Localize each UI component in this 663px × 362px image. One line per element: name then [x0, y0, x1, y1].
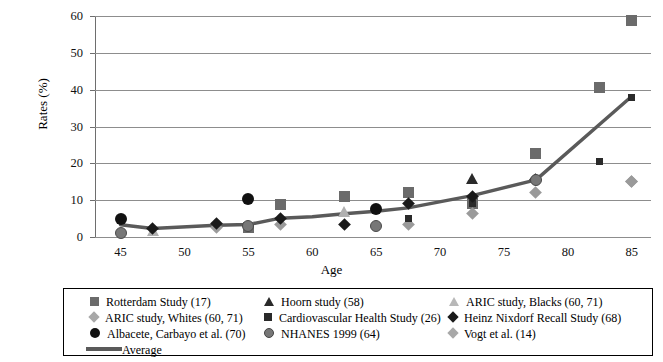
legend-item-label: Average: [122, 343, 162, 357]
x-tick-label: 55: [228, 246, 268, 258]
legend-item: Rotterdam Study (17): [90, 294, 211, 309]
triangle-light-marker-icon: [449, 297, 459, 306]
y-tick-label: 50: [53, 47, 83, 59]
data-points-layer: [95, 16, 651, 237]
x-tick-label: 45: [101, 246, 141, 258]
data-point-marker: [405, 215, 412, 222]
diamond-light-marker-icon: [88, 312, 99, 323]
chart-figure: Rates (%) Age 0102030405060 455055606570…: [0, 0, 663, 362]
data-point-marker: [530, 174, 542, 186]
y-tick-label: 60: [53, 10, 83, 22]
x-tick-label: 75: [484, 246, 524, 258]
line-marker-icon: [86, 347, 122, 351]
legend-item-label: ARIC study, Blacks (60, 71): [466, 295, 603, 309]
legend-item-label: NHANES 1999 (64): [281, 327, 380, 341]
legend-item: ARIC study, Blacks (60, 71): [449, 294, 603, 309]
y-tick-label: 40: [53, 84, 83, 96]
x-tick-label: 80: [548, 246, 588, 258]
y-tick-label: 0: [53, 231, 83, 243]
legend-item: Hoorn study (58): [264, 294, 364, 309]
x-tick-label: 85: [612, 246, 652, 258]
diamond-light-marker-icon: [447, 328, 458, 339]
data-point-marker: [596, 158, 603, 165]
legend-item: Albacete, Carbayo et al. (70): [90, 326, 246, 341]
triangle-marker-icon: [264, 297, 274, 306]
legend-item: Cardiovascular Health Study (26): [264, 310, 441, 325]
legend-item: Average: [86, 342, 162, 357]
legend-item-label: Albacete, Carbayo et al. (70): [107, 327, 246, 341]
y-tick-label: 10: [53, 194, 83, 206]
data-point-marker: [339, 191, 350, 202]
chart-legend: Rotterdam Study (17)ARIC study, Whites (…: [63, 288, 653, 356]
legend-item-label: Cardiovascular Health Study (26): [279, 311, 441, 325]
data-point-marker: [626, 15, 637, 26]
gridline: [95, 237, 651, 238]
x-tick-label: 70: [420, 246, 460, 258]
data-point-marker: [338, 206, 350, 217]
legend-item: ARIC study, Whites (60, 71): [90, 310, 243, 325]
square-marker-icon: [90, 297, 99, 306]
x-tick-label: 50: [164, 246, 204, 258]
x-tick-label: 65: [356, 246, 396, 258]
chart-plot-region: Rates (%) Age 0102030405060 455055606570…: [0, 0, 663, 282]
circle-gray-marker-icon: [264, 328, 274, 338]
legend-item: NHANES 1999 (64): [264, 326, 380, 341]
circle-marker-icon: [90, 328, 100, 338]
square-small-marker-icon: [264, 313, 272, 321]
data-point-marker: [466, 173, 478, 184]
y-tick-label: 30: [53, 121, 83, 133]
data-point-marker: [530, 148, 541, 159]
legend-item-label: Heinz Nixdorf Recall Study (68): [464, 311, 621, 325]
data-point-marker: [275, 199, 286, 210]
data-point-marker: [594, 82, 605, 93]
legend-item-label: Hoorn study (58): [281, 295, 364, 309]
legend-item: Heinz Nixdorf Recall Study (68): [449, 310, 621, 325]
x-tick-label: 60: [292, 246, 332, 258]
legend-item-label: ARIC study, Whites (60, 71): [105, 311, 243, 325]
legend-item-label: Vogt et al. (14): [464, 327, 536, 341]
legend-item: Vogt et al. (14): [449, 326, 536, 341]
y-axis-title: Rates (%): [35, 49, 51, 159]
data-point-marker: [115, 227, 127, 239]
data-point-marker: [115, 213, 127, 225]
y-tick-label: 20: [53, 157, 83, 169]
y-tick-mark: [90, 237, 95, 238]
data-point-marker: [628, 94, 635, 101]
legend-item-label: Rotterdam Study (17): [106, 295, 211, 309]
diamond-marker-icon: [447, 312, 458, 323]
x-axis-title: Age: [0, 262, 663, 278]
